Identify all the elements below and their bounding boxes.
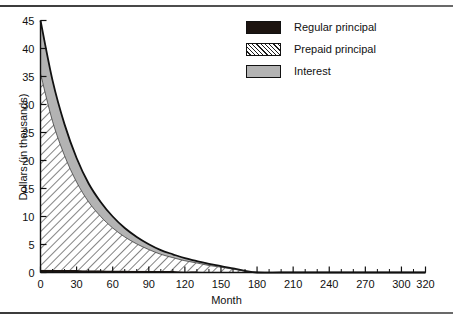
x-tick-label: 90 (143, 278, 155, 290)
x-tick-label: 180 (248, 278, 266, 290)
chart-legend: Regular principal Prepaid principal Inte… (246, 16, 377, 82)
legend-label-prepaid-principal: Prepaid principal (294, 43, 376, 55)
y-axis-title-wrapper: Dollars (in thousands) (13, 67, 31, 227)
area-band-prepaid-principal (41, 74, 426, 273)
x-tick-label: 120 (176, 278, 194, 290)
legend-label-regular-principal: Regular principal (294, 21, 377, 33)
x-tick-label: 320 (416, 278, 434, 290)
y-axis-title: Dollars (in thousands) (17, 94, 29, 201)
x-tick-label: 0 (37, 278, 43, 290)
top-border-rule (0, 5, 453, 7)
legend-item-prepaid-principal: Prepaid principal (246, 38, 377, 60)
legend-swatch-interest (246, 65, 281, 78)
legend-item-regular-principal: Regular principal (246, 16, 377, 38)
x-tick-label: 210 (284, 278, 302, 290)
legend-label-interest: Interest (294, 65, 331, 77)
x-tick-label: 30 (70, 278, 82, 290)
legend-swatch-prepaid-principal (246, 43, 281, 56)
mortgage-amortization-chart: 0306090120150180210240270300320051015202… (0, 0, 453, 320)
x-tick-label: 240 (320, 278, 338, 290)
y-tick-label: 0 (28, 267, 34, 279)
bottom-border-rule (0, 312, 453, 314)
y-tick-label: 40 (22, 43, 34, 55)
plot-area: 0306090120150180210240270300320051015202… (0, 0, 453, 320)
y-tick-label: 45 (22, 15, 34, 27)
legend-item-interest: Interest (246, 60, 377, 82)
x-tick-label: 270 (356, 278, 374, 290)
x-tick-label: 150 (212, 278, 230, 290)
legend-swatch-regular-principal (246, 21, 281, 34)
x-tick-label: 300 (392, 278, 410, 290)
x-axis-title: Month (0, 294, 453, 306)
x-tick-label: 60 (107, 278, 119, 290)
y-tick-label: 5 (28, 239, 34, 251)
